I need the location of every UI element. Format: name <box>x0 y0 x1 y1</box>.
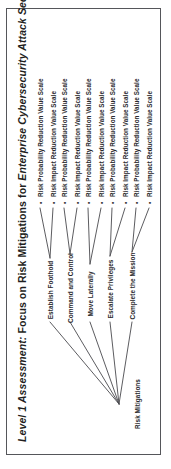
tree-leaf-label: Risk Impact Reduction Value Scale <box>98 91 105 197</box>
tree-stage-node-command-and-control[interactable]: Command and Control <box>67 253 74 323</box>
tree-stage-label: Escalate Privileges <box>107 260 114 319</box>
tree-leaf-node-probability-2[interactable]: •Risk Probability Reduction Value Scale <box>61 79 68 204</box>
bullet-icon: • <box>122 197 129 204</box>
tree-stage-node-move-laterally[interactable]: Move Laterally <box>87 271 94 316</box>
tree-leaf-node-probability-3[interactable]: •Risk Probability Reduction Value Scale <box>85 79 92 204</box>
tree-leaf-label: Risk Impact Reduction Value Scale <box>74 91 81 197</box>
tree-leaf-label: Risk Probability Reduction Value Scale <box>133 79 140 197</box>
tree-root-node[interactable]: Risk Mitigations <box>134 379 141 429</box>
tree-stage-label: Command and Control <box>67 253 74 323</box>
tree-leaf-label: Risk Impact Reduction Value Scale <box>146 91 153 197</box>
tree-stage-label: Complete the Mission <box>129 252 136 319</box>
bullet-icon: • <box>85 197 92 204</box>
tree-leaf-node-probability-1[interactable]: •Risk Probability Reduction Value Scale <box>37 79 44 204</box>
tree-leaf-node-probability-4[interactable]: •Risk Probability Reduction Value Scale <box>109 79 116 204</box>
risk-mitigation-tree: Risk Mitigations Establish Foothold Comm… <box>7 7 162 454</box>
bullet-icon: • <box>37 197 44 204</box>
bullet-icon: • <box>146 197 153 204</box>
tree-leaf-node-impact-5[interactable]: •Risk Impact Reduction Value Scale <box>146 91 153 204</box>
figure-frame: Level 1 Assessment: Focus on Risk Mitiga… <box>6 8 161 455</box>
tree-leaf-node-impact-4[interactable]: •Risk Impact Reduction Value Scale <box>122 91 129 204</box>
bullet-icon: • <box>50 197 57 204</box>
tree-leaf-label: Risk Impact Reduction Value Scale <box>50 91 57 197</box>
tree-leaf-label: Risk Probability Reduction Value Scale <box>109 79 116 197</box>
tree-leaf-label: Risk Impact Reduction Value Scale <box>122 91 129 197</box>
tree-leaf-label: Risk Probability Reduction Value Scale <box>61 79 68 197</box>
tree-stage-node-escalate-privileges[interactable]: Escalate Privileges <box>107 260 114 319</box>
tree-stage-label: Move Laterally <box>87 271 94 316</box>
tree-leaf-label: Risk Probability Reduction Value Scale <box>37 79 44 197</box>
bullet-icon: • <box>109 197 116 204</box>
bullet-icon: • <box>98 197 105 204</box>
tree-leaf-node-impact-1[interactable]: •Risk Impact Reduction Value Scale <box>50 91 57 204</box>
tree-stage-node-establish-foothold[interactable]: Establish Foothold <box>47 261 54 319</box>
tree-stage-node-complete-the-mission[interactable]: Complete the Mission <box>129 252 136 319</box>
tree-root-label: Risk Mitigations <box>134 379 141 429</box>
tree-leaf-node-impact-2[interactable]: •Risk Impact Reduction Value Scale <box>74 91 81 204</box>
bullet-icon: • <box>133 197 140 204</box>
bullet-icon: • <box>61 197 68 204</box>
tree-leaf-node-probability-5[interactable]: •Risk Probability Reduction Value Scale <box>133 79 140 204</box>
tree-leaf-node-impact-3[interactable]: •Risk Impact Reduction Value Scale <box>98 91 105 204</box>
tree-stage-label: Establish Foothold <box>47 261 54 319</box>
tree-leaf-label: Risk Probability Reduction Value Scale <box>85 79 92 197</box>
figure-stage: Level 1 Assessment: Focus on Risk Mitiga… <box>0 0 171 469</box>
bullet-icon: • <box>74 197 81 204</box>
